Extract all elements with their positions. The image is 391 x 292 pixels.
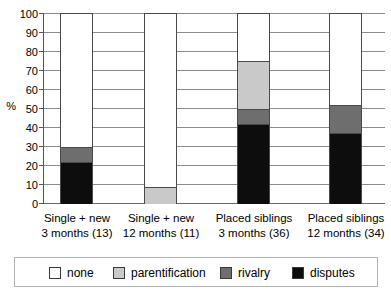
bar-segment-disputes[interactable]: [60, 162, 93, 204]
bar-segment-rivalry[interactable]: [329, 105, 362, 134]
bar-segment-none[interactable]: [144, 13, 177, 187]
bar-segment-none[interactable]: [329, 13, 362, 105]
y-tick-label-40: 40: [12, 123, 38, 134]
legend-swatch-none-icon: [49, 267, 61, 279]
bar-group-single-new-3-months[interactable]: [60, 13, 93, 204]
y-tick-label-70: 70: [12, 66, 38, 77]
legend-label-parentification: parentification: [131, 266, 206, 280]
bar-segment-rivalry[interactable]: [60, 147, 93, 162]
y-tick-label-90: 90: [12, 28, 38, 39]
y-tick-label-100: 100: [12, 9, 38, 20]
y-tick-label-60: 60: [12, 85, 38, 96]
bar-segment-none[interactable]: [60, 13, 93, 147]
legend-item-disputes[interactable]: disputes: [292, 265, 355, 281]
bar-group-placed-siblings-3-months[interactable]: [237, 13, 270, 204]
bar-segment-disputes[interactable]: [329, 133, 362, 204]
legend-swatch-parentification-icon: [113, 267, 125, 279]
legend-label-rivalry: rivalry: [238, 266, 270, 280]
bar-segment-parentification[interactable]: [144, 187, 177, 204]
y-tick-label-50: 50: [12, 104, 38, 115]
category-label-placed-siblings-12-months: Placed siblings 12 months (34): [291, 211, 391, 241]
y-tick-label-20: 20: [12, 161, 38, 172]
y-tick-label-10: 10: [12, 180, 38, 191]
legend-item-parentification[interactable]: parentification: [113, 265, 206, 281]
legend: none parentification rivalry disputes: [14, 257, 378, 287]
bar-segment-rivalry[interactable]: [237, 109, 270, 124]
bar-segment-none[interactable]: [237, 13, 270, 61]
legend-label-disputes: disputes: [310, 266, 355, 280]
bar-segment-disputes[interactable]: [237, 124, 270, 204]
bar-group-placed-siblings-12-months[interactable]: [329, 13, 362, 204]
y-tick-label-80: 80: [12, 47, 38, 58]
bar-segment-parentification[interactable]: [237, 61, 270, 109]
legend-swatch-rivalry-icon: [220, 267, 232, 279]
legend-item-rivalry[interactable]: rivalry: [220, 265, 270, 281]
legend-swatch-disputes-icon: [292, 267, 304, 279]
stacked-bar-chart: % 100 90 80 70 60 50 40 30 20 10 0: [0, 0, 391, 292]
y-tick-label-30: 30: [12, 142, 38, 153]
legend-item-none[interactable]: none: [49, 265, 94, 281]
y-tick-label-0: 0: [12, 199, 38, 210]
plot-area: [43, 13, 385, 204]
legend-label-none: none: [67, 266, 94, 280]
bar-group-single-new-12-months[interactable]: [144, 13, 177, 204]
category-label-line2: 12 months (34): [291, 226, 391, 241]
category-label-line1: Placed siblings: [291, 211, 391, 226]
